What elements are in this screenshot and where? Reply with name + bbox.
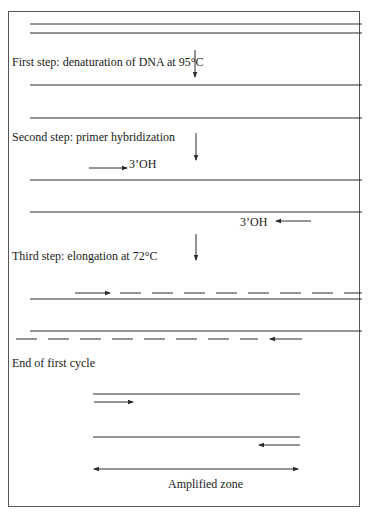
cycle-end-products bbox=[93, 394, 300, 445]
step2-label: Second step: primer hybridization bbox=[12, 130, 175, 144]
denatured-strands bbox=[30, 85, 362, 118]
reverse-3oh-label: 3’OH bbox=[240, 215, 267, 229]
end-cycle-label: End of first cycle bbox=[12, 356, 95, 370]
pcr-diagram: First step: denaturation of DNA at 95°C … bbox=[0, 0, 390, 519]
hybridization-strands bbox=[30, 180, 362, 212]
forward-3oh-label: 3’OH bbox=[129, 157, 156, 171]
amplified-zone-label: Amplified zone bbox=[168, 477, 243, 491]
dna-duplex bbox=[30, 24, 362, 33]
step1-label: First step: denaturation of DNA at 95°C bbox=[12, 55, 203, 69]
step3-label: Third step: elongation at 72°C bbox=[12, 249, 157, 263]
